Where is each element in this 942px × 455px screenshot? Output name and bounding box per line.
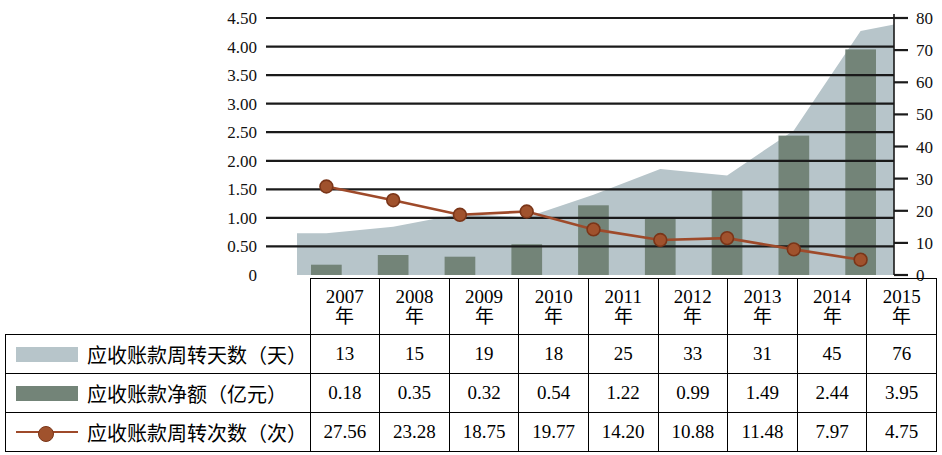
line-marker (320, 180, 333, 193)
year-suffix: 年 (591, 307, 656, 326)
right-tick-label: 80 (916, 9, 933, 28)
table-corner-spacer (6, 279, 311, 335)
table-cell-value: 18.75 (449, 413, 519, 452)
line-marker (854, 253, 867, 266)
left-tick-label: 3.50 (227, 66, 257, 85)
left-tick-label: 2.00 (227, 152, 257, 171)
table-cell-value: 18 (519, 335, 589, 374)
table-cell-value: 76 (867, 335, 937, 374)
bar (511, 244, 542, 275)
bar (845, 49, 876, 275)
column-header-year: 2012年 (658, 279, 728, 335)
table-cell-value: 3.95 (867, 374, 937, 413)
table-cell-value: 0.35 (380, 374, 450, 413)
right-tick-label: 50 (916, 105, 933, 124)
right-tick-label: 30 (916, 170, 933, 189)
bar-swatch-icon (16, 386, 78, 401)
right-axis-tick-labels: 01020304050607080 (894, 9, 933, 282)
table-cell-value: 0.54 (519, 374, 589, 413)
chart-area: 00.501.001.502.002.503.003.504.004.50010… (0, 0, 942, 280)
swatch-marker-dot (38, 426, 54, 442)
legend-label: 应收账款周转次数（次） (87, 418, 307, 447)
line-marker (654, 234, 667, 247)
table-header-row: 2007年2008年2009年2010年2011年2012年2013年2014年… (6, 279, 937, 335)
line-marker-swatch-icon (16, 425, 78, 440)
table-cell-value: 11.48 (728, 413, 798, 452)
line-marker (454, 208, 467, 221)
legend-row-3: 应收账款周转次数（次） (6, 413, 311, 452)
column-header-year: 2008年 (380, 279, 450, 335)
column-header-year: 2015年 (867, 279, 937, 335)
year-suffix: 年 (661, 307, 726, 326)
column-header-year: 2011年 (588, 279, 658, 335)
legend-label: 应收账款周转天数（天） (87, 340, 307, 369)
year-number: 2014 (800, 287, 865, 306)
table-cell-value: 45 (797, 335, 867, 374)
right-tick-label: 10 (916, 234, 933, 253)
year-suffix: 年 (313, 307, 378, 326)
column-header-year: 2010年 (519, 279, 589, 335)
column-header-year: 2007年 (310, 279, 380, 335)
line-marker (387, 194, 400, 207)
table-row: 应收账款周转次数（次）27.5623.2818.7519.7714.2010.8… (6, 413, 937, 452)
table-cell-value: 31 (728, 335, 798, 374)
left-tick-label: 4.50 (227, 9, 257, 28)
left-axis-tick-labels: 00.501.001.502.002.503.003.504.004.50 (227, 9, 257, 282)
year-number: 2007 (313, 287, 378, 306)
combo-chart: 00.501.001.502.002.503.003.504.004.50010… (0, 0, 942, 282)
bar (378, 255, 409, 275)
column-header-year: 2014年 (797, 279, 867, 335)
table-cell-value: 1.22 (588, 374, 658, 413)
data-table: 2007年2008年2009年2010年2011年2012年2013年2014年… (5, 278, 937, 452)
year-number: 2009 (452, 287, 517, 306)
bar (445, 257, 476, 275)
area-swatch-icon (16, 347, 78, 362)
year-number: 2012 (661, 287, 726, 306)
right-tick-label: 60 (916, 73, 933, 92)
table-cell-value: 14.20 (588, 413, 658, 452)
table-cell-value: 0.99 (658, 374, 728, 413)
left-tick-label: 2.50 (227, 123, 257, 142)
year-number: 2013 (730, 287, 795, 306)
right-tick-label: 20 (916, 202, 933, 221)
table-cell-value: 25 (588, 335, 658, 374)
year-suffix: 年 (730, 307, 795, 326)
left-tick-label: 0.50 (227, 237, 257, 256)
legend-row-1: 应收账款周转天数（天） (6, 335, 311, 374)
legend-entry: 应收账款周转次数（次） (16, 418, 304, 447)
legend-row-2: 应收账款净额（亿元） (6, 374, 311, 413)
left-tick-label: 1.50 (227, 180, 257, 199)
table-cell-value: 7.97 (797, 413, 867, 452)
legend-label: 应收账款净额（亿元） (87, 379, 287, 408)
table-cell-value: 4.75 (867, 413, 937, 452)
table-row: 应收账款净额（亿元）0.180.350.320.541.220.991.492.… (6, 374, 937, 413)
table-cell-value: 13 (310, 335, 380, 374)
table-cell-value: 27.56 (310, 413, 380, 452)
table-cell-value: 19.77 (519, 413, 589, 452)
right-tick-label: 40 (916, 138, 933, 157)
year-suffix: 年 (800, 307, 865, 326)
line-marker (520, 205, 533, 218)
table-cell-value: 10.88 (658, 413, 728, 452)
legend-entry: 应收账款周转天数（天） (16, 340, 304, 369)
table-cell-value: 23.28 (380, 413, 450, 452)
left-tick-label: 4.00 (227, 38, 257, 57)
legend-entry: 应收账款净额（亿元） (16, 379, 304, 408)
year-number: 2011 (591, 287, 656, 306)
table-cell-value: 2.44 (797, 374, 867, 413)
year-suffix: 年 (869, 307, 934, 326)
bar (578, 205, 609, 275)
line-marker (721, 232, 734, 245)
right-tick-label: 70 (916, 41, 933, 60)
year-number: 2015 (869, 287, 934, 306)
left-tick-label: 3.00 (227, 95, 257, 114)
table-cell-value: 0.18 (310, 374, 380, 413)
year-suffix: 年 (521, 307, 586, 326)
table-cell-value: 33 (658, 335, 728, 374)
table-cell-value: 15 (380, 335, 450, 374)
bar (311, 265, 342, 275)
year-suffix: 年 (382, 307, 447, 326)
table-cell-value: 19 (449, 335, 519, 374)
table-row: 应收账款周转天数（天）131519182533314576 (6, 335, 937, 374)
line-marker (787, 243, 800, 256)
